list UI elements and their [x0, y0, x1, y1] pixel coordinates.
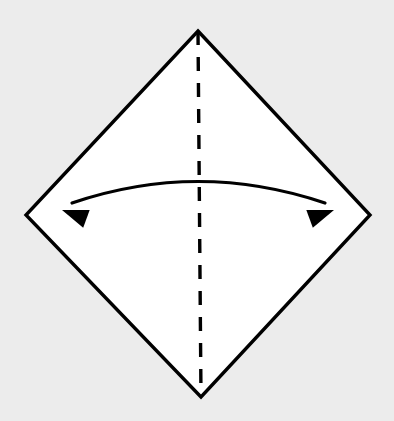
origami-diagram-svg — [0, 0, 394, 421]
origami-diagram-canvas — [0, 0, 394, 421]
